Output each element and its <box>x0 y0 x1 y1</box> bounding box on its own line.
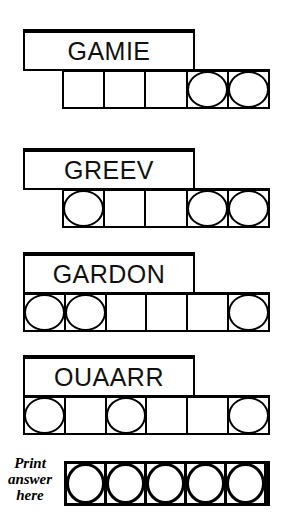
letter-cell-circled[interactable] <box>25 295 66 330</box>
letter-cell-circled[interactable] <box>107 398 148 433</box>
circle-icon <box>106 397 147 434</box>
circle-icon <box>24 294 65 331</box>
letter-cell[interactable] <box>188 295 229 330</box>
letter-cell-row <box>62 69 270 109</box>
letter-cell[interactable] <box>146 191 187 226</box>
answer-cell-circled[interactable] <box>227 464 267 503</box>
circle-icon <box>228 294 269 331</box>
letter-cell[interactable] <box>66 398 107 433</box>
circle-icon <box>65 294 106 331</box>
scrambled-word-box: GARDON <box>23 252 195 294</box>
circle-icon <box>228 71 269 108</box>
letter-cell-circled[interactable] <box>229 295 268 330</box>
letter-cell[interactable] <box>105 72 146 107</box>
letter-cell-row <box>23 292 270 332</box>
answer-label-line-1: Print <box>0 455 60 471</box>
answer-cell-circled[interactable] <box>147 464 187 503</box>
scrambled-word-text: GARDON <box>53 262 166 287</box>
letter-cell-circled[interactable] <box>66 295 107 330</box>
letter-cell-circled[interactable] <box>229 398 268 433</box>
letter-cell[interactable] <box>147 295 188 330</box>
letter-cell[interactable] <box>147 398 188 433</box>
circle-icon <box>106 463 145 504</box>
scrambled-word-text: OUAARR <box>54 365 164 390</box>
answer-cell-circled[interactable] <box>107 464 147 503</box>
answer-label-line-3: here <box>0 487 60 503</box>
letter-cell[interactable] <box>146 72 187 107</box>
scrambled-word-text: GREEV <box>64 158 154 183</box>
letter-cell[interactable] <box>64 72 105 107</box>
circle-icon <box>228 397 269 434</box>
scrambled-word-box: OUAARR <box>23 355 195 397</box>
letter-cell-circled[interactable] <box>229 72 268 107</box>
circle-icon <box>226 463 265 504</box>
circle-icon <box>187 190 228 227</box>
letter-cell[interactable] <box>105 191 146 226</box>
letter-cell-circled[interactable] <box>188 191 229 226</box>
scrambled-word-box: GAMIE <box>23 29 195 71</box>
letter-cell-circled[interactable] <box>229 191 268 226</box>
letter-cell-row <box>62 188 270 228</box>
answer-instruction-label: Print answer here <box>0 455 60 503</box>
letter-cell-circled[interactable] <box>188 72 229 107</box>
answer-cell-circled[interactable] <box>187 464 227 503</box>
letter-cell[interactable] <box>188 398 229 433</box>
scrambled-word-text: GAMIE <box>67 39 150 64</box>
letter-cell-row <box>23 395 270 435</box>
circle-icon <box>63 190 104 227</box>
circle-icon <box>24 397 65 434</box>
letter-cell-circled[interactable] <box>25 398 66 433</box>
word-scramble-puzzle: GAMIEGREEVGARDONOUAARR Print answer here <box>0 0 285 525</box>
answer-cell-circled[interactable] <box>67 464 107 503</box>
answer-cell-row[interactable] <box>64 461 270 506</box>
circle-icon <box>187 71 228 108</box>
letter-cell-circled[interactable] <box>64 191 105 226</box>
scrambled-word-box: GREEV <box>23 148 195 190</box>
circle-icon <box>228 190 269 227</box>
circle-icon <box>146 463 185 504</box>
answer-label-line-2: answer <box>0 471 60 487</box>
circle-icon <box>66 463 105 504</box>
circle-icon <box>186 463 225 504</box>
letter-cell[interactable] <box>107 295 148 330</box>
